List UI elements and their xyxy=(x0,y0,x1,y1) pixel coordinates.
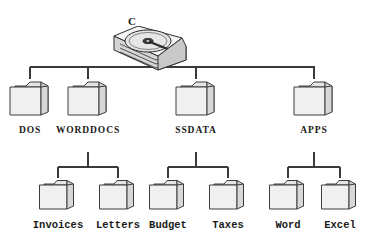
folder-node-letters[interactable]: Letters xyxy=(93,177,143,232)
folder-node-apps[interactable]: APPS xyxy=(284,78,344,138)
folder-icon xyxy=(319,177,361,215)
folder-node-ssdata[interactable]: SSDATA xyxy=(166,78,226,138)
folder-node-dos[interactable]: DOS xyxy=(0,78,60,138)
folder-label-budget: Budget xyxy=(149,220,187,231)
folder-node-taxes[interactable]: Taxes xyxy=(203,177,253,232)
folder-label-dos: DOS xyxy=(19,126,41,136)
hard-disk-drive-icon xyxy=(110,26,190,78)
folder-node-excel[interactable]: Excel xyxy=(315,177,365,232)
folder-icon xyxy=(7,78,53,122)
folder-label-letters: Letters xyxy=(96,220,140,231)
folder-label-apps: APPS xyxy=(300,126,327,136)
folder-icon xyxy=(147,177,189,215)
directory-tree-diagram: C xyxy=(0,0,366,242)
folder-icon xyxy=(37,177,79,215)
folder-icon xyxy=(207,177,249,215)
folder-label-taxes: Taxes xyxy=(212,220,244,231)
folder-node-word[interactable]: Word xyxy=(263,177,313,232)
folder-node-invoices[interactable]: Invoices xyxy=(33,177,83,232)
folder-label-excel: Excel xyxy=(324,220,356,231)
folder-icon xyxy=(97,177,139,215)
folder-icon xyxy=(173,78,219,122)
folder-label-invoices: Invoices xyxy=(33,220,83,231)
folder-icon xyxy=(267,177,309,215)
folder-icon xyxy=(65,78,111,122)
folder-icon xyxy=(291,78,337,122)
folder-node-worddocs[interactable]: WORDDOCS xyxy=(58,78,118,138)
drive-node-c[interactable]: C xyxy=(110,18,190,70)
folder-label-worddocs: WORDDOCS xyxy=(56,126,120,136)
folder-node-budget[interactable]: Budget xyxy=(143,177,193,232)
folder-label-ssdata: SSDATA xyxy=(175,126,216,136)
folder-label-word: Word xyxy=(275,220,300,231)
